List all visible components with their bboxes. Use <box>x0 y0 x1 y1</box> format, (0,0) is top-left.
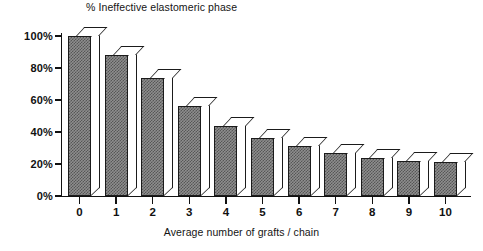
y-axis-label: 100% <box>0 30 53 42</box>
bar-side-face <box>201 98 210 196</box>
bar-1 <box>105 46 128 196</box>
y-axis-label: 80% <box>0 62 53 74</box>
bar-front-face <box>68 36 91 196</box>
x-axis-label-4: 4 <box>211 206 241 218</box>
x-axis-tick <box>262 197 263 204</box>
bar-side-face <box>91 28 100 196</box>
y-axis-line <box>61 33 62 197</box>
y-axis-label-text: 100% <box>1 30 53 42</box>
bar-0 <box>68 27 91 196</box>
bar-top-face <box>333 144 364 153</box>
y-axis-label: 40% <box>0 126 53 138</box>
bar-7 <box>324 144 347 196</box>
x-axis-label-8: 8 <box>357 206 387 218</box>
bar-top-face <box>150 69 181 78</box>
bar-top-face <box>296 137 327 146</box>
x-axis-tick <box>115 197 116 204</box>
y-axis-label: 20% <box>0 158 53 170</box>
x-axis-title: Average number of grafts / chain <box>0 226 483 238</box>
y-axis-label-text: 40% <box>1 126 53 138</box>
x-axis-label-2: 2 <box>138 206 168 218</box>
bar-front-face <box>214 126 237 196</box>
x-axis-tick <box>79 197 80 204</box>
bar-front-face <box>178 106 201 196</box>
bar-front-face <box>288 146 311 196</box>
y-axis-label-text: 20% <box>1 158 53 170</box>
y-axis-tick <box>55 35 62 36</box>
bar-front-face <box>251 138 274 196</box>
bar-side-face <box>237 117 246 196</box>
y-axis-label: 60% <box>0 94 53 106</box>
bar-8 <box>361 149 384 196</box>
bar-side-face <box>164 69 173 196</box>
bar-front-face <box>105 55 128 196</box>
bar-top-face <box>113 46 144 55</box>
bar-3 <box>178 97 201 196</box>
x-axis-label-9: 9 <box>394 206 424 218</box>
bar-side-face <box>311 138 320 196</box>
x-axis-label-6: 6 <box>284 206 314 218</box>
bar-top-face <box>76 27 107 36</box>
y-axis-tick <box>55 67 62 68</box>
x-axis-tick <box>225 197 226 204</box>
x-axis-tick <box>445 197 446 204</box>
bar-front-face <box>397 161 420 196</box>
x-axis-label-1: 1 <box>101 206 131 218</box>
y-axis-label-text: 0% <box>1 190 53 202</box>
bar-side-face <box>128 47 137 196</box>
bar-side-face <box>274 130 283 196</box>
bar-front-face <box>324 153 347 196</box>
bar-10 <box>434 153 457 196</box>
x-axis-tick <box>189 197 190 204</box>
x-axis-label-0: 0 <box>65 206 95 218</box>
bar-front-face <box>434 162 457 196</box>
bar-top-face <box>259 129 290 138</box>
y-axis-tick <box>55 195 62 196</box>
bar-front-face <box>141 78 164 196</box>
y-axis-label-text: 80% <box>1 62 53 74</box>
y-axis-label: 0% <box>0 190 53 202</box>
x-axis-tick <box>372 197 373 204</box>
plot-area: 0%20%40%60%80%100%012345678910 <box>0 0 483 251</box>
x-axis-label-3: 3 <box>174 206 204 218</box>
x-axis-tick <box>335 197 336 204</box>
bar-top-face <box>369 149 400 158</box>
x-axis-tick <box>408 197 409 204</box>
bar-top-face <box>223 117 254 126</box>
bar-6 <box>288 137 311 196</box>
y-axis-tick <box>55 131 62 132</box>
x-axis-label-5: 5 <box>248 206 278 218</box>
bar-top-face <box>186 97 217 106</box>
bar-4 <box>214 117 237 196</box>
y-axis-tick <box>55 163 62 164</box>
x-axis-tick <box>152 197 153 204</box>
y-axis-label-text: 60% <box>1 94 53 106</box>
bar-2 <box>141 69 164 196</box>
x-axis-label-7: 7 <box>321 206 351 218</box>
chart-screenshot: % Ineffective elastomeric phase 0%20%40%… <box>0 0 483 251</box>
x-axis-label-10: 10 <box>431 206 461 218</box>
x-axis-tick <box>298 197 299 204</box>
bar-9 <box>397 152 420 196</box>
y-axis-tick <box>55 99 62 100</box>
bar-top-face <box>442 153 473 162</box>
bar-front-face <box>361 158 384 196</box>
bar-top-face <box>406 152 437 161</box>
bar-5 <box>251 129 274 196</box>
